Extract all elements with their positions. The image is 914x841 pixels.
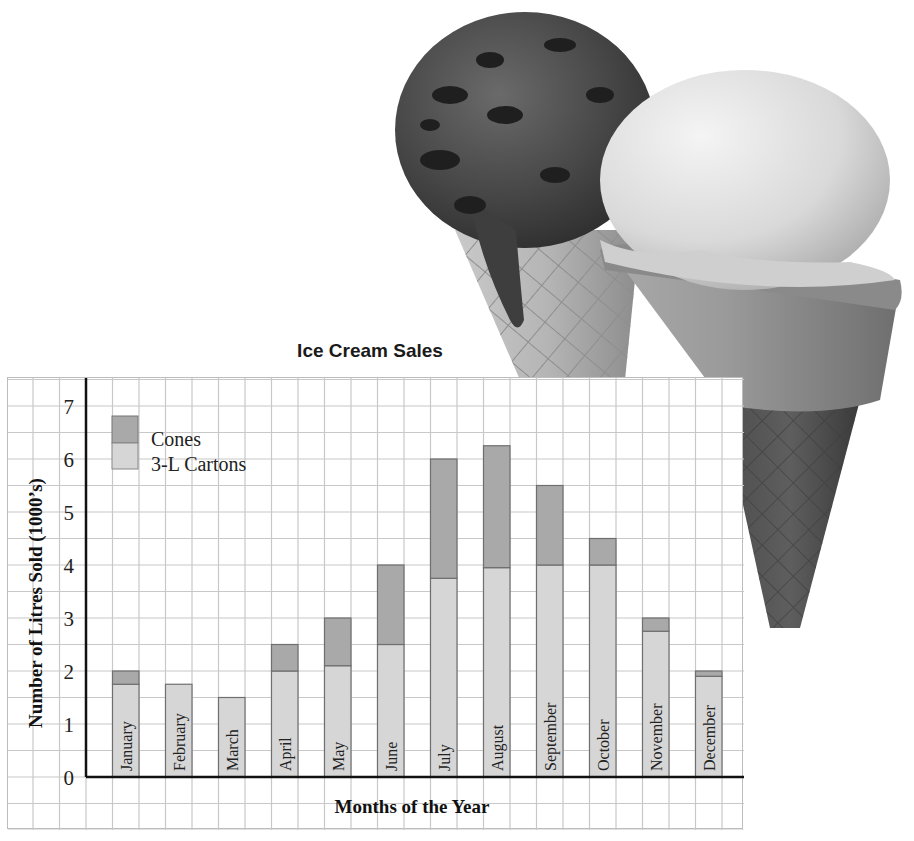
legend-swatch-cones (112, 416, 138, 443)
month-label: December (701, 705, 718, 771)
chart-title: Ice Cream Sales (255, 340, 485, 362)
bar-segment-cones (696, 671, 723, 676)
y-tick-label: 5 (64, 501, 75, 525)
month-label: August (489, 724, 507, 771)
y-axis-label: Number of Litres Sold (1000’s) (25, 478, 47, 728)
bar-segment-cones (537, 486, 564, 566)
month-label: March (224, 729, 241, 771)
chart-panel: JanuaryFebruaryMarchAprilMayJuneJulyAugu… (7, 377, 743, 829)
month-label: November (648, 703, 665, 771)
y-tick-label: 6 (64, 448, 75, 472)
chart-bars (113, 446, 723, 777)
month-label: April (277, 737, 295, 771)
stacked-bar-chart: JanuaryFebruaryMarchAprilMayJuneJulyAugu… (8, 378, 744, 830)
bar-segment-cones (113, 671, 140, 684)
month-label: September (542, 702, 560, 771)
bar-segment-cones (431, 459, 458, 578)
legend-label-cartons: 3-L Cartons (151, 453, 247, 475)
y-tick-label: 7 (64, 395, 75, 419)
bar-segment-cones (272, 645, 299, 672)
bar-segment-cones (590, 539, 617, 566)
month-label: January (118, 721, 136, 771)
month-label: February (171, 713, 189, 771)
y-tick-label: 2 (64, 660, 75, 684)
x-axis-label: Months of the Year (335, 796, 491, 817)
bar-segment-cones (378, 565, 405, 645)
y-tick-label: 1 (64, 713, 75, 737)
chart-legend: Cones 3-L Cartons (112, 416, 247, 475)
bar-segment-cones (325, 618, 352, 666)
bar-segment-cones (484, 446, 511, 568)
month-label: October (595, 719, 612, 771)
bar-segment-cones (643, 618, 670, 631)
month-label: May (330, 742, 348, 771)
bar-july (431, 459, 458, 777)
legend-label-cones: Cones (151, 428, 201, 450)
month-label: June (383, 742, 400, 771)
month-label: July (436, 744, 454, 771)
y-tick-label: 4 (64, 554, 75, 578)
y-tick-label: 3 (64, 607, 75, 631)
y-tick-label: 0 (64, 766, 75, 790)
month-labels: JanuaryFebruaryMarchAprilMayJuneJulyAugu… (118, 702, 718, 771)
y-axis-ticks: 01234567 (64, 395, 75, 790)
legend-swatch-cartons (112, 443, 138, 469)
